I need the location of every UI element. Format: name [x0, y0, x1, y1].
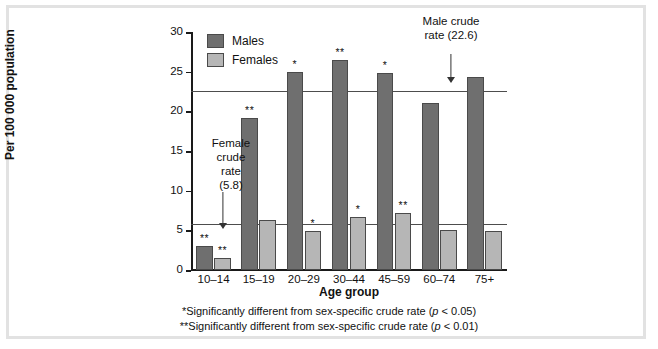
female-annot-line-4: (5.8): [197, 178, 265, 192]
plot-area: 051015202530 ************** 10–1415–1920…: [191, 32, 507, 270]
female-annot-line-2: crude: [197, 150, 265, 164]
female-crude-rate-arrow-icon: [216, 192, 230, 230]
y-axis-title: Per 100 000 population: [3, 29, 17, 160]
significance-marker-females-45-59: **: [383, 200, 423, 211]
bar-males-75+[interactable]: [467, 77, 484, 270]
significance-marker-males-15-19: **: [230, 105, 270, 116]
y-tick-10: [186, 191, 191, 193]
y-tick-label-0: 0: [177, 264, 183, 276]
male-annot-line-2: rate (22.6): [405, 28, 497, 42]
footnote-2-pre: **Significantly different from sex-speci…: [180, 320, 435, 332]
significance-marker-males-10-14: **: [185, 233, 225, 244]
y-tick-label-25: 25: [170, 66, 183, 78]
significance-marker-females-30-44: *: [338, 204, 378, 215]
x-tick-label-75+: 75+: [456, 273, 512, 285]
footnote-double-star: **Significantly different from sex-speci…: [9, 319, 649, 334]
x-axis-title: Age group: [191, 285, 507, 299]
y-tick-label-15: 15: [170, 145, 183, 157]
footnote-single-star: *Significantly different from sex-specif…: [9, 304, 649, 319]
bar-females-30-44[interactable]: [350, 217, 367, 270]
bar-females-45-59[interactable]: [395, 213, 412, 270]
significance-marker-females-20-29: *: [293, 218, 333, 229]
bar-males-60-74[interactable]: [422, 103, 439, 270]
y-tick-25: [186, 72, 191, 74]
significance-marker-males-45-59: *: [365, 60, 405, 71]
male-crude-rate-arrow-icon: [444, 54, 458, 84]
male-crude-rate-annotation: Male crude rate (22.6): [405, 14, 497, 42]
female-annot-line-1: Female: [197, 136, 265, 150]
legend-swatch-males-icon: [207, 34, 224, 48]
female-annot-line-3: rate: [197, 164, 265, 178]
bar-males-45-59[interactable]: [377, 73, 394, 270]
bar-females-20-29[interactable]: [305, 231, 322, 270]
y-tick-label-10: 10: [170, 185, 183, 197]
legend: Males Females: [207, 34, 278, 72]
bar-females-10-14[interactable]: [214, 258, 231, 270]
figure-frame: Per 100 000 population 051015202530 ****…: [6, 5, 646, 339]
male-annot-line-1: Male crude: [405, 14, 497, 28]
bar-males-30-44[interactable]: [332, 60, 349, 270]
legend-swatch-females-icon: [207, 53, 224, 67]
female-crude-rate-annotation: Female crude rate (5.8): [197, 136, 265, 192]
y-tick-label-20: 20: [170, 106, 183, 118]
y-tick-15: [186, 151, 191, 153]
footnote-1-pre: *Significantly different from sex-specif…: [182, 305, 432, 317]
y-tick-label-30: 30: [170, 26, 183, 38]
y-tick-20: [186, 111, 191, 113]
significance-marker-males-20-29: *: [275, 59, 315, 70]
y-tick-30: [186, 32, 191, 34]
reference-line-male-crude-rate: [191, 91, 507, 92]
footnotes: *Significantly different from sex-specif…: [9, 304, 649, 334]
legend-item-males: Males: [207, 34, 278, 48]
bar-females-60-74[interactable]: [440, 230, 457, 270]
y-tick-label-5: 5: [177, 225, 183, 237]
footnote-2-post: < 0.01): [441, 320, 479, 332]
footnote-1-post: < 0.05): [438, 305, 476, 317]
bar-females-75+[interactable]: [485, 231, 502, 270]
significance-marker-females-10-14: **: [203, 245, 243, 256]
bar-females-15-19[interactable]: [259, 220, 276, 270]
y-tick-5: [186, 230, 191, 232]
legend-label-females: Females: [232, 53, 278, 67]
y-tick-0: [186, 270, 191, 272]
significance-marker-males-30-44: **: [320, 47, 360, 58]
bar-males-20-29[interactable]: [287, 72, 304, 270]
legend-item-females: Females: [207, 53, 278, 67]
legend-label-males: Males: [232, 34, 264, 48]
